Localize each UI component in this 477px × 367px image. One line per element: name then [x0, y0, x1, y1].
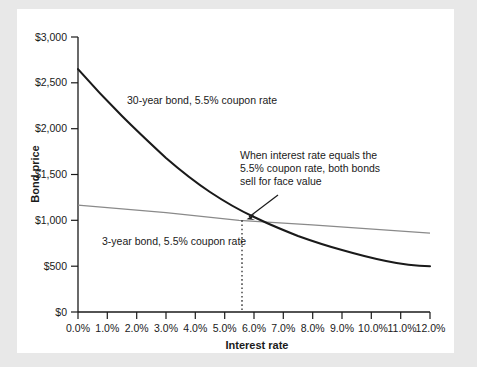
annotation-line-1: When interest rate equals the: [240, 149, 377, 161]
y-tick-label-2500: $2,500: [35, 76, 67, 88]
series-label-3-year-bond: 3-year bond, 5.5% coupon rate: [102, 235, 246, 247]
y-tick-label-1000: $1,000: [35, 214, 67, 226]
figure-card: $0 $500 $1,000 $1,500 $2,000 $2,500 $3,0…: [17, 9, 454, 353]
y-axis-title: Bond price: [29, 145, 41, 202]
x-tick-label-11: 11.0%: [388, 322, 417, 334]
y-tick-label-500: $500: [44, 260, 68, 272]
x-tick-label-9: 9.0%: [330, 322, 354, 334]
annotation-arrow-icon: [247, 195, 279, 220]
y-tick-label-3000: $3,000: [35, 31, 67, 43]
y-axis-ticks: [71, 37, 78, 312]
x-axis-title: Interest rate: [226, 339, 289, 351]
annotation-line-3: sell for face value: [240, 175, 322, 187]
series-line-3-year-bond: [78, 205, 430, 233]
x-tick-label-1: 1.0%: [95, 322, 119, 334]
y-tick-label-2000: $2,000: [35, 122, 67, 134]
x-tick-label-4: 4.0%: [183, 322, 207, 334]
x-axis-tick-labels: 0.0% 1.0% 2.0% 3.0% 4.0% 5.0% 6.0% 7.0% …: [66, 322, 445, 334]
y-tick-label-0: $0: [55, 306, 67, 318]
x-axis-ticks: [78, 312, 430, 319]
x-tick-label-8: 8.0%: [301, 322, 325, 334]
x-tick-label-12: 12.0%: [416, 322, 446, 334]
x-tick-label-2: 2.0%: [125, 322, 149, 334]
x-tick-label-6: 6.0%: [242, 322, 266, 334]
x-tick-label-10: 10.0%: [358, 322, 388, 334]
x-tick-label-3: 3.0%: [154, 322, 178, 334]
annotation-line-2: 5.5% coupon rate, both bonds: [240, 162, 380, 174]
x-tick-label-0: 0.0%: [66, 322, 90, 334]
annotation-callout: When interest rate equals the 5.5% coupo…: [240, 149, 380, 220]
bond-price-chart: $0 $500 $1,000 $1,500 $2,000 $2,500 $3,0…: [17, 9, 454, 353]
series-label-30-year-bond: 30-year bond, 5.5% coupon rate: [127, 94, 277, 106]
screenshot-root: $0 $500 $1,000 $1,500 $2,000 $2,500 $3,0…: [0, 0, 477, 367]
x-tick-label-5: 5.0%: [213, 322, 237, 334]
x-tick-label-7: 7.0%: [271, 322, 295, 334]
